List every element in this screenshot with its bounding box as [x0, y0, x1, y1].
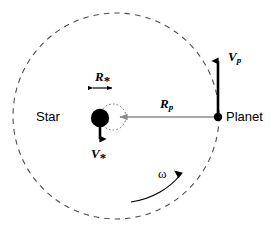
- planet-radius-symbol: R: [160, 96, 169, 111]
- star-body: [91, 109, 109, 127]
- planet-velocity-symbol: V: [228, 49, 237, 64]
- planet-label: Planet: [226, 110, 263, 123]
- orbital-diagram: Star Planet R* Rp V* Vp ω: [0, 0, 270, 231]
- planet-body: [214, 113, 222, 121]
- planet-radius-label: Rp: [160, 97, 173, 112]
- star-velocity-subscript: *: [100, 150, 107, 165]
- star-label: Star: [36, 110, 60, 123]
- planet-radius-subscript: p: [169, 102, 174, 112]
- angular-velocity-label: ω: [158, 167, 167, 180]
- star-velocity-symbol: V: [91, 146, 100, 161]
- angular-velocity-arc-arrow: [131, 175, 180, 202]
- star-radius-label: R*: [95, 70, 110, 87]
- star-radius-symbol: R: [95, 69, 104, 84]
- star-radius-subscript: *: [104, 73, 111, 88]
- planet-velocity-subscript: p: [237, 55, 242, 65]
- star-velocity-label: V*: [91, 147, 106, 164]
- planet-velocity-label: Vp: [228, 50, 241, 65]
